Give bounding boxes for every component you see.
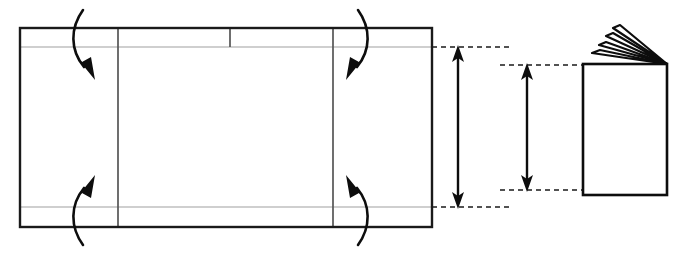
folding-diagram	[0, 0, 688, 253]
booklet-cover-outline	[583, 64, 667, 195]
diagram-canvas	[0, 0, 688, 253]
